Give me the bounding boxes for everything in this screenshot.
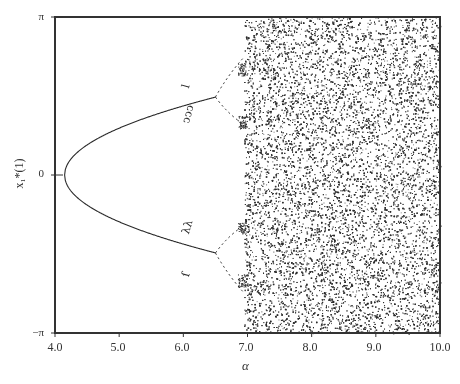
x-tick-6: 6.0 [162, 340, 202, 355]
y-tick-pi: π [24, 10, 44, 22]
x-tick-8: 8.0 [290, 340, 330, 355]
y-axis-label: x₁*(1) [12, 158, 27, 188]
y-tick-zero: 0 [24, 167, 44, 179]
x-tick-4: 4.0 [35, 340, 75, 355]
x-tick-7: 7.0 [226, 340, 266, 355]
x-tick-10: 10.0 [420, 340, 460, 355]
plot-area [0, 0, 460, 384]
bifurcation-figure: π 0 −π 4.0 5.0 6.0 7.0 8.0 9.0 10.0 α x₁… [0, 0, 460, 384]
x-axis-label: α [242, 358, 249, 374]
y-tick-neg-pi: −π [24, 326, 44, 338]
x-tick-5: 5.0 [98, 340, 138, 355]
x-tick-9: 9.0 [354, 340, 394, 355]
